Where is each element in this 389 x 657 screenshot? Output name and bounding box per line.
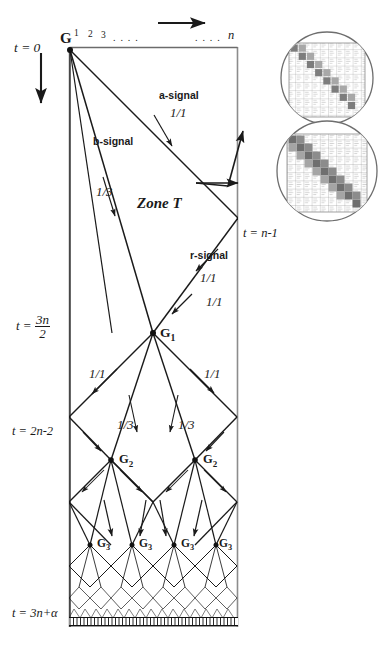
cell-index-ellipsis-left: . . . . xyxy=(113,33,139,43)
general-label-G: G xyxy=(60,31,72,46)
g2-left-speed: 1/3 xyxy=(117,418,134,431)
g2-right-speed: 1/3 xyxy=(178,418,195,431)
cell-index-1: 1 xyxy=(74,29,79,39)
fraction-numerator: 3n xyxy=(35,313,50,327)
magnifier-inset-upper xyxy=(281,32,373,124)
b-signal-speed: 1/3 xyxy=(96,185,113,198)
cell-index-ellipsis-right: . . . . xyxy=(195,33,221,43)
a-signal-label: a-signal xyxy=(159,90,199,101)
g3b-letter: G xyxy=(139,537,148,549)
g2a-letter: G xyxy=(119,452,129,466)
g2b-subscript: 2 xyxy=(213,459,218,469)
signal-direction-arrows xyxy=(82,115,226,492)
general-label-G3-1: G3 xyxy=(97,537,110,552)
general-label-G3-4: G3 xyxy=(219,537,232,552)
g3d-letter: G xyxy=(219,537,228,549)
time-label-tn1: t = n-1 xyxy=(243,227,278,240)
general-label-G2-right: G2 xyxy=(203,452,217,469)
g2a-subscript: 2 xyxy=(129,459,134,469)
general-label-G2-left: G2 xyxy=(119,452,133,469)
r-signal-speed: 1/1 xyxy=(200,271,217,284)
time-label-t3n2-fraction: 3n 2 xyxy=(35,313,50,341)
g1-letter: G xyxy=(160,325,171,340)
b-signal-label: b-signal xyxy=(93,136,133,147)
g3c-subscript: 3 xyxy=(190,543,194,552)
inset-leader-lines xyxy=(196,131,243,186)
general-label-G1: G1 xyxy=(160,325,175,343)
g3c-letter: G xyxy=(181,537,190,549)
time-label-t3n2: t = 3n 2 xyxy=(16,313,50,341)
time-label-t0: t = 0 xyxy=(14,41,40,55)
magnifier-inset-lower xyxy=(277,121,377,221)
general-label-G3-3: G3 xyxy=(181,537,194,552)
g1-subscript: 1 xyxy=(171,332,176,343)
fraction-denominator: 2 xyxy=(35,327,50,340)
g1-incoming-speed: 1/1 xyxy=(206,295,223,308)
time-label-t3na: t = 3n+α xyxy=(12,607,58,620)
space-time-diagram: t = 0 G 1 2 3 . . . . . . . . n a-signal… xyxy=(0,0,389,657)
r-signal-line xyxy=(153,218,238,333)
cell-index-n: n xyxy=(228,29,234,42)
general-label-G3-2: G3 xyxy=(139,537,152,552)
cell-index-3: 3 xyxy=(101,31,106,41)
time-label-t3n2-prefix: t = xyxy=(16,318,32,333)
g3d-subscript: 3 xyxy=(228,543,232,552)
time-label-t2n2: t = 2n-2 xyxy=(12,425,53,438)
g1-left-speed: 1/1 xyxy=(89,367,106,380)
r-signal-label: r-signal xyxy=(190,250,228,261)
g2b-letter: G xyxy=(203,452,213,466)
g3a-letter: G xyxy=(97,537,106,549)
zone-t-label: Zone T xyxy=(137,196,182,211)
g3b-subscript: 3 xyxy=(148,543,152,552)
g3a-subscript: 3 xyxy=(106,543,110,552)
g1-right-speed: 1/1 xyxy=(204,367,221,380)
a-signal-speed: 1/1 xyxy=(170,106,187,119)
cell-index-2: 2 xyxy=(88,30,93,40)
